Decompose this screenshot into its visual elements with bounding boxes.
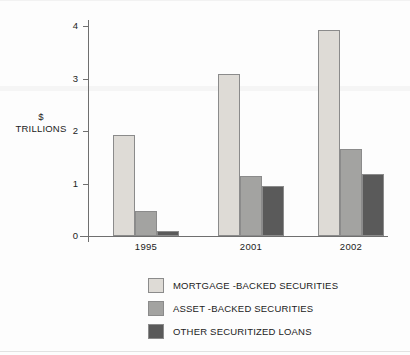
y-tick-label-wrap: 0 bbox=[60, 231, 78, 241]
bar bbox=[340, 149, 362, 236]
y-tick-label-wrap: 3 bbox=[60, 74, 78, 84]
bar bbox=[157, 231, 179, 236]
y-axis-line bbox=[88, 20, 89, 242]
legend-item: MORTGAGE -BACKED SECURITIES bbox=[148, 276, 388, 296]
x-tick-label: 2001 bbox=[216, 241, 286, 253]
x-axis-line bbox=[80, 236, 388, 237]
y-tick-label: 3 bbox=[60, 74, 78, 84]
page-bottom-rule bbox=[0, 351, 410, 352]
y-tick-mark bbox=[83, 79, 88, 80]
bar bbox=[362, 174, 384, 236]
y-axis-title-line2: TRILLIONS bbox=[8, 123, 74, 135]
legend-item-label: OTHER SECURITIZED LOANS bbox=[173, 325, 312, 338]
legend-item: ASSET -BACKED SECURITIES bbox=[148, 299, 388, 319]
chart-legend: MORTGAGE -BACKED SECURITIESASSET -BACKED… bbox=[148, 276, 388, 345]
y-tick-label: 4 bbox=[60, 21, 78, 31]
legend-swatch-icon bbox=[148, 278, 164, 293]
legend-item-label: ASSET -BACKED SECURITIES bbox=[173, 302, 313, 315]
bar bbox=[218, 74, 240, 236]
y-tick-label-wrap: 1 bbox=[60, 179, 78, 189]
chart-page: 01234 199520012002 $ TRILLIONS MORTGAGE … bbox=[0, 0, 410, 355]
legend-item: OTHER SECURITIZED LOANS bbox=[148, 322, 388, 342]
bar bbox=[262, 186, 284, 236]
x-tick-label: 2002 bbox=[316, 241, 386, 253]
y-tick-mark bbox=[83, 184, 88, 185]
y-axis-title: $ TRILLIONS bbox=[8, 111, 74, 135]
y-tick-label: 1 bbox=[60, 179, 78, 189]
x-tick-label: 1995 bbox=[111, 241, 181, 253]
legend-swatch-icon bbox=[148, 301, 164, 316]
y-tick-label-wrap: 4 bbox=[60, 21, 78, 31]
y-tick-label: 0 bbox=[60, 231, 78, 241]
y-tick-mark bbox=[83, 131, 88, 132]
bar bbox=[318, 30, 340, 236]
bar bbox=[135, 211, 157, 236]
bar bbox=[240, 176, 262, 236]
bar bbox=[113, 135, 135, 236]
y-tick-mark bbox=[83, 26, 88, 27]
legend-item-label: MORTGAGE -BACKED SECURITIES bbox=[173, 279, 338, 292]
legend-swatch-icon bbox=[148, 324, 164, 339]
y-axis-title-line1: $ bbox=[8, 111, 74, 123]
y-tick-mark bbox=[83, 236, 88, 237]
